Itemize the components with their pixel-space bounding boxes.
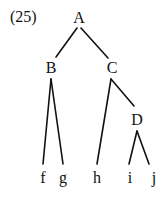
node-D: D [131, 111, 143, 128]
node-f: f [40, 169, 46, 186]
node-A: A [73, 9, 85, 26]
edge-A-C [81, 28, 108, 58]
node-B: B [46, 59, 57, 76]
edge-B-f [43, 79, 51, 164]
node-j: j [151, 169, 156, 187]
tree-diagram: (25) ABCDfghij [0, 0, 168, 197]
example-number: (25) [10, 8, 37, 26]
edge-B-g [51, 79, 63, 164]
edge-D-i [129, 131, 137, 164]
node-g: g [59, 169, 67, 187]
node-h: h [93, 169, 101, 186]
edge-A-B [56, 28, 77, 57]
node-i: i [128, 169, 133, 186]
edge-C-h [97, 79, 111, 164]
edge-C-D [111, 79, 134, 106]
node-C: C [107, 59, 118, 76]
edge-D-j [137, 131, 149, 164]
